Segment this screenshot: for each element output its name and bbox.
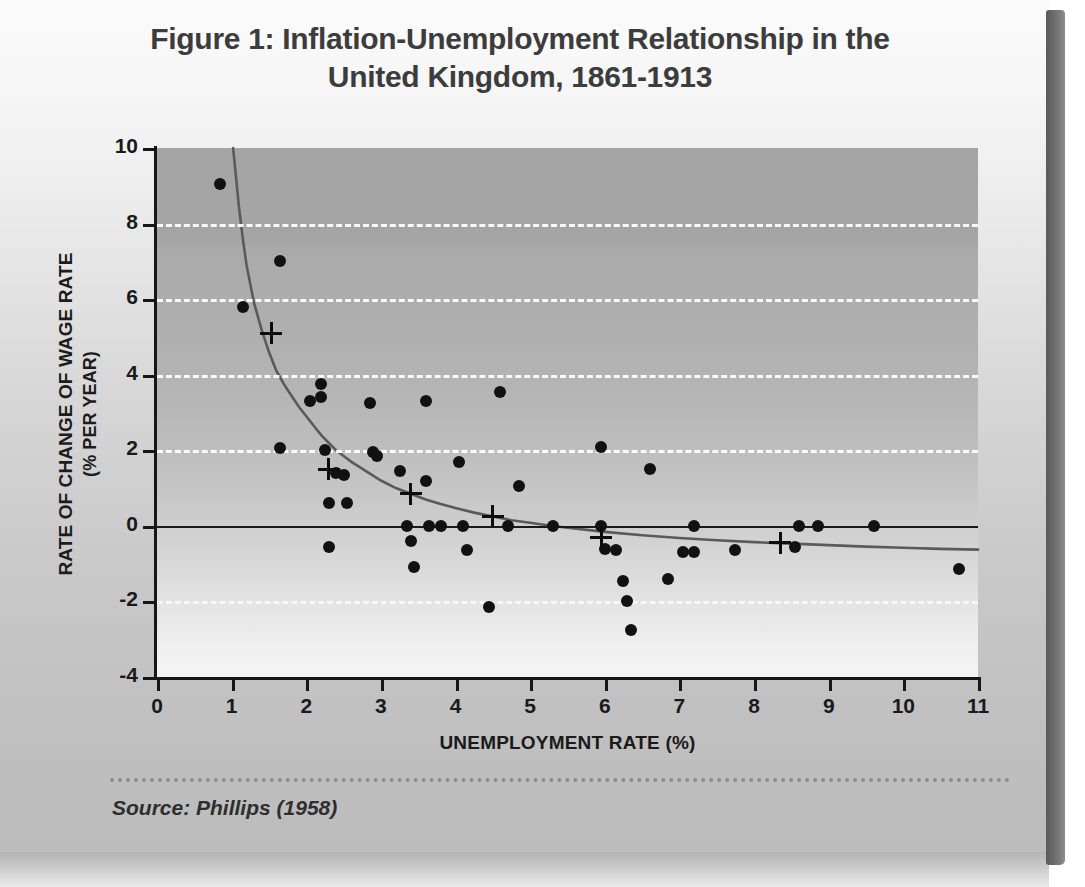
data-point-cross — [400, 483, 422, 505]
x-axis-tick-label: 4 — [436, 694, 476, 718]
y-axis-tick-label: 10 — [92, 134, 138, 158]
data-point-dot — [868, 520, 880, 532]
x-axis-tick — [903, 677, 906, 691]
figure-root: Figure 1: Inflation-Unemployment Relatio… — [0, 0, 1085, 887]
y-axis-tick — [143, 224, 156, 227]
data-point-dot — [237, 301, 249, 313]
y-axis-tick — [143, 601, 156, 604]
data-point-dot — [662, 573, 674, 585]
y-axis-tick-label: 0 — [92, 512, 138, 536]
data-point-cross — [590, 526, 612, 548]
data-point-dot — [405, 535, 417, 547]
x-axis-tick — [232, 677, 235, 691]
x-axis-tick — [157, 677, 160, 691]
data-point-cross — [260, 322, 282, 344]
figure-title-line-2: United Kingdom, 1861-1913 — [40, 58, 1000, 96]
x-axis-tick — [456, 677, 459, 691]
x-axis-tick-label: 2 — [286, 694, 326, 718]
zero-reference-line — [157, 526, 978, 528]
gridline-y — [157, 299, 978, 302]
source-note: Source: Phillips (1958) — [112, 796, 337, 820]
data-point-dot — [364, 397, 376, 409]
x-axis-tick-label: 0 — [137, 694, 177, 718]
y-axis-tick-label: -2 — [92, 587, 138, 611]
x-axis-tick — [381, 677, 384, 691]
data-point-dot — [420, 395, 432, 407]
y-axis-tick — [143, 148, 156, 151]
fitted-phillips-curve — [157, 148, 978, 677]
data-point-dot — [323, 497, 335, 509]
data-point-dot — [457, 520, 469, 532]
y-axis-tick-label: 8 — [92, 210, 138, 234]
x-axis-title: UNEMPLOYMENT RATE (%) — [157, 732, 978, 754]
data-point-dot — [793, 520, 805, 532]
y-axis-tick — [143, 299, 156, 302]
data-point-cross — [482, 505, 504, 527]
x-axis-tick-label: 10 — [883, 694, 923, 718]
source-divider — [110, 778, 1010, 782]
y-axis-title-main: RATE OF CHANGE OF WAGE RATE — [55, 253, 76, 576]
x-axis-tick-label: 8 — [734, 694, 774, 718]
data-point-dot — [625, 624, 637, 636]
x-axis-tick — [306, 677, 309, 691]
y-axis-tick-label: 4 — [92, 361, 138, 385]
data-point-dot — [595, 441, 607, 453]
figure-title-line-1: Figure 1: Inflation-Unemployment Relatio… — [40, 20, 1000, 58]
x-axis-tick-label: 9 — [809, 694, 849, 718]
x-axis-tick — [530, 677, 533, 691]
gridline-y — [157, 224, 978, 227]
data-point-dot — [812, 520, 824, 532]
x-axis-tick-label: 3 — [361, 694, 401, 718]
x-axis-tick-label: 7 — [659, 694, 699, 718]
data-point-dot — [644, 463, 656, 475]
x-axis-tick — [605, 677, 608, 691]
x-axis-tick-label: 5 — [510, 694, 550, 718]
y-axis-tick — [143, 677, 156, 680]
x-axis-tick — [978, 677, 981, 691]
y-axis-tick — [143, 450, 156, 453]
figure-title: Figure 1: Inflation-Unemployment Relatio… — [40, 20, 1000, 96]
x-axis-tick-label: 11 — [958, 694, 998, 718]
data-point-dot — [547, 520, 559, 532]
y-axis-tick-label: 6 — [92, 285, 138, 309]
plot-area — [157, 148, 978, 677]
data-point-cross — [318, 458, 340, 480]
y-axis-tick — [143, 526, 156, 529]
gridline-y — [157, 375, 978, 378]
x-axis-tick — [829, 677, 832, 691]
data-point-dot — [435, 520, 447, 532]
x-axis-tick-label: 6 — [585, 694, 625, 718]
data-point-dot — [401, 520, 413, 532]
x-axis-tick — [679, 677, 682, 691]
page-bottom-shadow — [0, 852, 1049, 887]
y-axis-tick-label: 2 — [92, 436, 138, 460]
data-point-dot — [323, 541, 335, 553]
y-axis-tick-label: -4 — [92, 663, 138, 687]
x-axis-tick — [754, 677, 757, 691]
data-point-dot — [453, 456, 465, 468]
gridline-y — [157, 601, 978, 604]
x-axis-tick-label: 1 — [212, 694, 252, 718]
data-point-cross — [769, 532, 791, 554]
data-point-dot — [394, 465, 406, 477]
x-axis-line — [154, 677, 981, 680]
y-axis-tick — [143, 375, 156, 378]
data-point-dot — [494, 386, 506, 398]
